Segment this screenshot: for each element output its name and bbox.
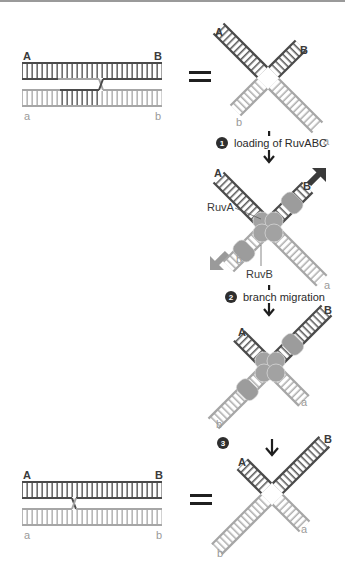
label-A-middle-1: A [214,167,222,179]
label-b-middle-1: b [236,253,242,265]
top-right-x-junction [214,24,323,133]
label-a-middle-2: a [301,396,307,408]
label-a-bottom-right: a [301,523,307,535]
label-b-middle-2: b [216,418,222,430]
step-3-caption: 3 [217,437,229,449]
label-b-bottom-left: b [156,529,162,541]
label-A-top-right: A [215,26,223,38]
step-2-text: branch migration [243,291,325,303]
label-A-middle-2: A [238,326,246,338]
ruvb-label: RuvB [246,268,273,280]
label-B-bottom-left: B [155,469,163,481]
label-a-top-left: a [24,110,30,122]
step-1-caption: 1 loading of RuvABC [216,137,327,149]
label-b-top-left: b [155,110,161,122]
label-B-top-right: B [300,44,308,56]
label-a-middle-1: a [324,279,330,291]
label-b-top-right: b [236,116,242,128]
label-B-middle-2: B [324,304,332,316]
label-A-bottom-right: A [238,456,246,468]
bottom-left-linear-junction [22,482,162,525]
label-A-top-left: A [23,50,31,62]
top-left-linear-junction [22,63,162,106]
ruvabc-complex-junction-2 [208,305,331,428]
equals-sign-bottom [190,494,212,505]
label-A-bottom-left: A [23,469,31,481]
label-b-bottom-right: b [217,547,223,559]
step-3-badge: 3 [217,437,229,449]
label-a-bottom-left: a [24,529,30,541]
label-B-bottom-right: B [324,433,332,445]
ruva-label: RuvA [207,201,234,213]
migration-arrow-up-right [309,168,326,184]
step-1-badge: 1 [216,137,228,149]
step-2-badge: 2 [225,291,237,303]
step-2-caption: 2 branch migration [225,291,325,303]
step-1-text: loading of RuvABC [234,137,327,149]
step3-arrow [266,439,278,455]
label-B-middle-1: B [303,180,311,192]
equals-sign-top [189,71,211,82]
label-B-top-left: B [154,50,162,62]
